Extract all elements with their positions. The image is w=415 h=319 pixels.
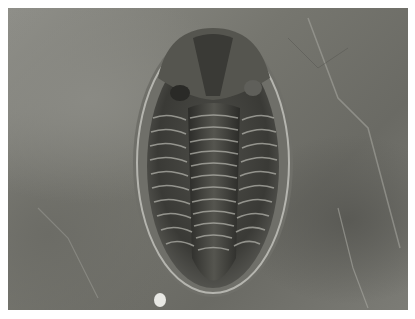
trilobite-fossil-photo <box>8 8 408 310</box>
fossil-illustration <box>8 8 408 310</box>
